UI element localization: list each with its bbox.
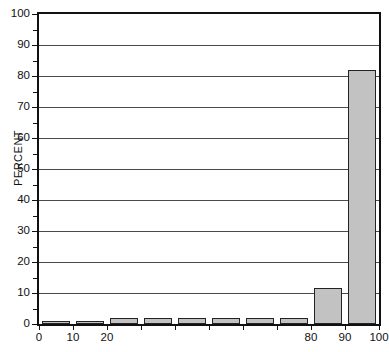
gridline-40 — [39, 200, 379, 201]
y-tick-label-90: 90 — [0, 39, 30, 51]
x-tick-label-100: 100 — [369, 332, 388, 344]
y-tick-label-50: 50 — [0, 163, 30, 175]
y-tick-label-80: 80 — [0, 70, 30, 82]
bar — [348, 70, 376, 324]
x-tick-60 — [243, 324, 244, 330]
y-tick-20 — [32, 262, 39, 263]
y-minor-tick-75 — [33, 92, 39, 93]
y-tick-10 — [32, 293, 39, 294]
x-tick-label-20: 20 — [101, 332, 114, 344]
y-tick-label-60: 60 — [0, 132, 30, 144]
y-tick-label-70: 70 — [0, 101, 30, 113]
bar — [144, 318, 172, 324]
y-tick-70 — [32, 107, 39, 108]
gridline-20 — [39, 262, 379, 263]
y-minor-tick-5 — [33, 309, 39, 310]
y-tick-80 — [32, 76, 39, 77]
x-tick-100 — [379, 324, 380, 330]
bar — [212, 318, 240, 324]
y-minor-tick-35 — [33, 216, 39, 217]
bar — [280, 318, 308, 324]
y-tick-0 — [32, 324, 39, 325]
x-tick-label-90: 90 — [339, 332, 352, 344]
y-axis-title-container: PERCENT — [12, 0, 26, 352]
y-tick-label-20: 20 — [0, 256, 30, 268]
x-tick-10 — [73, 324, 74, 330]
gridline-50 — [39, 169, 379, 170]
y-tick-100 — [32, 14, 39, 15]
x-tick-40 — [175, 324, 176, 330]
gridline-60 — [39, 138, 379, 139]
y-minor-tick-45 — [33, 185, 39, 186]
y-tick-label-30: 30 — [0, 225, 30, 237]
x-tick-50 — [209, 324, 210, 330]
gridline-70 — [39, 107, 379, 108]
x-tick-30 — [141, 324, 142, 330]
bar — [178, 318, 206, 324]
y-minor-tick-15 — [33, 278, 39, 279]
y-tick-60 — [32, 138, 39, 139]
bar — [314, 288, 342, 324]
y-tick-label-100: 100 — [0, 8, 30, 20]
x-tick-label-80: 80 — [305, 332, 318, 344]
y-tick-90 — [32, 45, 39, 46]
gridline-90 — [39, 45, 379, 46]
gridline-80 — [39, 76, 379, 77]
plot-area — [37, 12, 381, 326]
bar — [76, 321, 104, 324]
bar — [246, 318, 274, 324]
y-minor-tick-85 — [33, 61, 39, 62]
bar — [42, 321, 70, 324]
x-tick-0 — [39, 324, 40, 330]
gridline-30 — [39, 231, 379, 232]
y-minor-tick-95 — [33, 30, 39, 31]
x-tick-70 — [277, 324, 278, 330]
x-tick-20 — [107, 324, 108, 330]
y-minor-tick-25 — [33, 247, 39, 248]
y-minor-tick-55 — [33, 154, 39, 155]
x-tick-label-10: 10 — [67, 332, 80, 344]
y-tick-label-10: 10 — [0, 287, 30, 299]
x-tick-label-0: 0 — [36, 332, 42, 344]
y-tick-50 — [32, 169, 39, 170]
x-tick-90 — [345, 324, 346, 330]
y-tick-label-0: 0 — [0, 318, 30, 330]
bar — [110, 318, 138, 324]
y-minor-tick-65 — [33, 123, 39, 124]
y-tick-40 — [32, 200, 39, 201]
y-tick-label-40: 40 — [0, 194, 30, 206]
x-tick-80 — [311, 324, 312, 330]
y-tick-30 — [32, 231, 39, 232]
